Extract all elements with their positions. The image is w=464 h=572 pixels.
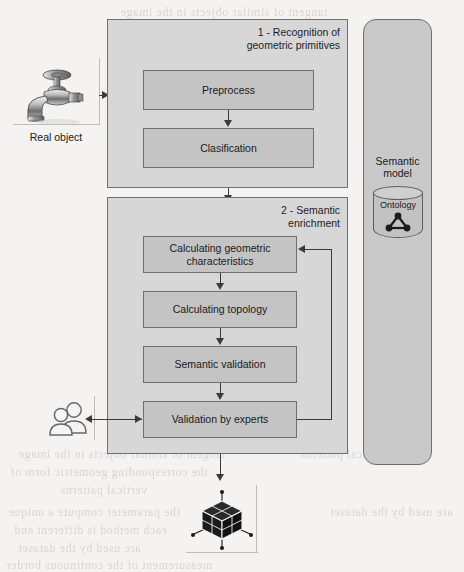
step-calculating-geometric-characteristics-label: Calculating geometric characteristics <box>170 242 271 268</box>
real-object-icon <box>14 66 100 126</box>
scan-noise-line: tangent of similar objects in the image <box>120 5 327 20</box>
stage-1-label: 1 - Recognition of geometric primitives <box>247 26 340 51</box>
step-clasification[interactable]: Clasification <box>143 128 314 168</box>
scan-noise-line: vertical patterns <box>60 483 147 498</box>
guide-line <box>186 552 258 553</box>
step-preprocess[interactable]: Preprocess <box>143 70 314 110</box>
guide-line <box>256 485 257 553</box>
guide-line <box>94 396 95 440</box>
step-semantic-validation-label: Semantic validation <box>174 358 265 371</box>
ontology-label: Ontology <box>373 200 423 210</box>
ontology-cylinder[interactable]: Ontology <box>373 186 423 238</box>
step-calculating-topology[interactable]: Calculating topology <box>143 291 297 328</box>
semantic-model-label: Semantic model <box>364 155 431 179</box>
step-clasification-label: Clasification <box>200 142 257 155</box>
diagram-canvas: tangent of similar objects in the image … <box>0 0 464 572</box>
semantic-model-panel[interactable]: Semantic model Ontology <box>363 19 432 465</box>
step-preprocess-label: Preprocess <box>202 84 255 97</box>
scan-noise-line: each method is different and <box>14 523 167 538</box>
scan-noise-line: are used by the dataset <box>330 505 452 520</box>
step-calculating-geometric-characteristics[interactable]: Calculating geometric characteristics <box>143 236 297 273</box>
ontology-graph-icon <box>384 212 412 238</box>
stage-2-label: 2 - Semantic enrichment <box>281 204 340 229</box>
scan-noise-line: the parameter compute a unique <box>8 505 180 520</box>
step-validation-by-experts-label: Validation by experts <box>172 413 269 426</box>
real-object-label: Real object <box>6 131 106 143</box>
step-validation-by-experts[interactable]: Validation by experts <box>143 401 297 438</box>
scan-noise-line: measurement of the continuous border <box>6 558 212 572</box>
guide-line <box>13 124 100 125</box>
scan-noise-line: the corresponding geometric form of <box>10 465 208 480</box>
scan-noise-line: are used by the dataset <box>18 541 140 556</box>
cylinder-top-ellipse <box>373 186 423 200</box>
step-semantic-validation[interactable]: Semantic validation <box>143 346 297 383</box>
3d-cube-mesh-model-icon <box>188 487 256 553</box>
step-calculating-topology-label: Calculating topology <box>173 303 268 316</box>
guide-line <box>99 58 100 125</box>
